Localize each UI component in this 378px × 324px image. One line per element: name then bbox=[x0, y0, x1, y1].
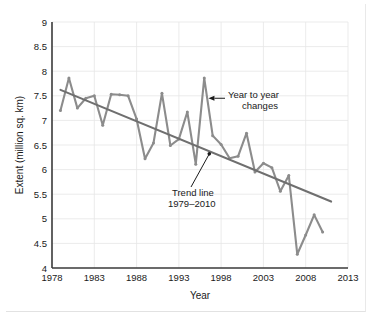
y-tick-label-6.5: 6.5 bbox=[34, 140, 47, 151]
chart-figure: 9 8.5 8 7.5 7 6.5 6 5.5 5 4.5 4 1978 198… bbox=[0, 0, 378, 324]
y-tick-label-4.5: 4.5 bbox=[34, 238, 47, 249]
annotation-trend-line2: 1979–2010 bbox=[168, 198, 216, 209]
sea-ice-extent-line-chart: 9 8.5 8 7.5 7 6.5 6 5.5 5 4.5 4 1978 198… bbox=[0, 0, 378, 324]
annotation-year-to-year-line2: changes bbox=[242, 100, 278, 111]
x-tick-label-1988: 1988 bbox=[126, 272, 147, 283]
y-tick-label-5.5: 5.5 bbox=[34, 189, 47, 200]
x-tick-label-1983: 1983 bbox=[84, 272, 105, 283]
x-axis-title: Year bbox=[190, 290, 211, 301]
y-axis-title: Extent (million sq. km) bbox=[14, 96, 25, 194]
y-tick-label-7: 7 bbox=[42, 115, 47, 126]
y-tick-label-5: 5 bbox=[42, 213, 47, 224]
y-tick-label-8: 8 bbox=[42, 66, 47, 77]
x-tick-label-1978: 1978 bbox=[41, 272, 62, 283]
annotation-trend-line1: Trend line bbox=[172, 187, 214, 198]
x-tick-label-2003: 2003 bbox=[253, 272, 274, 283]
annotation-year-to-year-line1: Year to year bbox=[228, 89, 279, 100]
y-tick-label-8.5: 8.5 bbox=[34, 41, 47, 52]
x-tick-label-2013: 2013 bbox=[337, 272, 358, 283]
x-tick-label-1993: 1993 bbox=[168, 272, 189, 283]
x-tick-label-2008: 2008 bbox=[295, 272, 316, 283]
x-tick-label-1998: 1998 bbox=[211, 272, 232, 283]
y-tick-label-9: 9 bbox=[42, 17, 47, 28]
y-tick-label-7.5: 7.5 bbox=[34, 90, 47, 101]
y-tick-label-6: 6 bbox=[42, 164, 47, 175]
